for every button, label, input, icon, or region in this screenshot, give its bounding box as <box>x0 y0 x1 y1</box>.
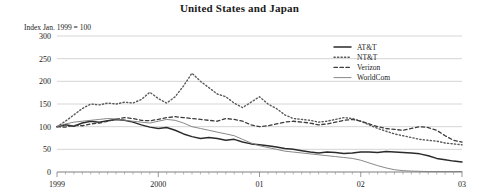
legend-label-verizon: Verizon <box>357 63 381 72</box>
legend-label-nt-t: NT&T <box>357 53 378 62</box>
legend-label-worldcom: WorldCom <box>357 73 390 82</box>
x-axis-tick-label: 03 <box>458 180 466 189</box>
x-axis-tick-label: 2000 <box>150 180 166 189</box>
y-axis-tick-label: 100 <box>39 123 51 132</box>
x-axis-tick-label: 01 <box>256 180 264 189</box>
y-axis-tick-label: 0 <box>47 168 51 177</box>
x-axis-tick-label: 02 <box>357 180 365 189</box>
series-line-verizon <box>57 117 462 142</box>
y-axis-tick-label: 150 <box>39 100 51 109</box>
y-axis-tick-label: 300 <box>39 32 51 41</box>
y-axis-tick-label: 250 <box>39 55 51 64</box>
series-line-nt-t <box>57 73 462 145</box>
x-axis-tick-label: 1999 <box>49 180 65 189</box>
y-axis-tick-label: 50 <box>43 145 51 154</box>
series-line-at-t <box>57 119 462 162</box>
line-chart: 05010015020025030019992000010203AT&TNT&T… <box>0 0 479 192</box>
chart-plot-area: 05010015020025030019992000010203AT&TNT&T… <box>0 0 479 192</box>
legend-label-at-t: AT&T <box>357 43 377 52</box>
y-axis-tick-label: 200 <box>39 77 51 86</box>
